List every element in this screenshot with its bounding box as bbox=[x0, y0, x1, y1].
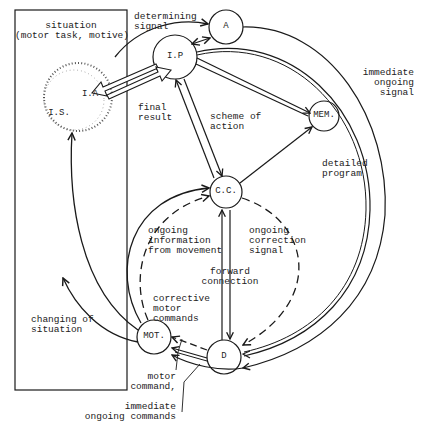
node-ia-label: I.A bbox=[78, 89, 102, 99]
label-determining-signal: determining signal bbox=[134, 12, 197, 32]
node-mem-label: MEM. bbox=[310, 110, 338, 120]
label-immediate-ongoing-commands: immediate ongoing commands bbox=[80, 402, 176, 422]
label-forward-connection: forward connection bbox=[200, 267, 260, 287]
situation-subtitle: (motor task, motive) bbox=[15, 31, 127, 41]
node-a-label: A bbox=[216, 21, 236, 31]
label-scheme-of-action: scheme of action bbox=[210, 112, 261, 132]
label-immediate-ongoing-signal: immediate ongoing signal bbox=[352, 68, 414, 98]
node-cc-label: C.C. bbox=[212, 186, 240, 196]
node-mot-label: MOT. bbox=[140, 331, 168, 341]
label-ongoing-correction-signal: ongoing correction signal bbox=[249, 226, 306, 256]
diagram-canvas bbox=[0, 0, 423, 430]
label-motor-command: motor command, bbox=[120, 372, 176, 392]
node-is-label: I.S. bbox=[46, 108, 72, 118]
label-changing-of-situation: changing of situation bbox=[31, 315, 94, 335]
label-ongoing-information: ongoing information from movement bbox=[148, 226, 222, 256]
node-d-label: D bbox=[214, 351, 234, 361]
label-detailed-program: detailed program bbox=[322, 159, 368, 179]
label-corrective-motor-commands: corrective motor commands bbox=[153, 294, 210, 324]
node-ip-label: I.P bbox=[162, 51, 188, 61]
label-final-result: final result bbox=[138, 103, 172, 123]
